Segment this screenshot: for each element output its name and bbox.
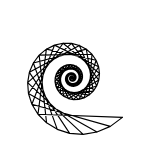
spiral-string-art-canvas (0, 0, 150, 159)
center-dot (70, 76, 73, 79)
spiral-figure-container (0, 0, 150, 159)
